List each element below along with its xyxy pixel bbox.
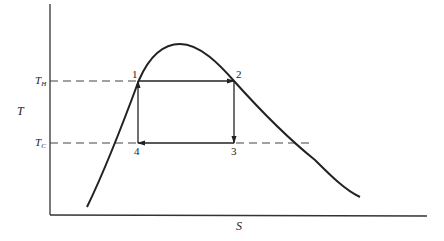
x-axis <box>50 215 427 216</box>
th-label: TH <box>35 74 47 88</box>
tc-label: TC <box>35 136 46 150</box>
point-3-label: 3 <box>231 145 237 157</box>
y-axis-label: T <box>17 104 25 118</box>
saturation-curve <box>87 44 360 207</box>
ts-diagram: 1 2 3 4 TH TC T S <box>0 0 444 241</box>
point-4-label: 4 <box>134 145 140 157</box>
point-2-label: 2 <box>236 68 242 80</box>
x-axis-label: S <box>236 219 242 233</box>
point-1-label: 1 <box>132 68 138 80</box>
